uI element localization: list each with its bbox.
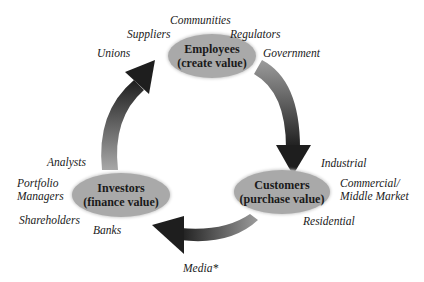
label-unions: Unions: [97, 47, 130, 60]
label-media: Media*: [183, 262, 218, 275]
node-investors-title: Investors: [97, 181, 144, 195]
label-communities: Communities: [170, 14, 231, 27]
node-investors: Investors (finance value): [72, 173, 170, 217]
label-analysts: Analysts: [47, 156, 86, 169]
label-commercial: Commercial/: [340, 177, 400, 190]
node-employees-title: Employees: [184, 42, 239, 56]
label-portfolio: Portfolio: [17, 177, 59, 190]
label-residential: Residential: [303, 215, 355, 228]
label-industrial: Industrial: [321, 157, 366, 170]
node-investors-subtitle: (finance value): [83, 195, 159, 209]
arrow-customers-to-investors: [152, 214, 258, 254]
label-government: Government: [263, 47, 320, 60]
arrow-investors-to-employees: [101, 60, 155, 170]
label-shareholders: Shareholders: [19, 214, 80, 227]
label-middle-market: Middle Market: [340, 190, 409, 203]
node-customers-title: Customers: [254, 178, 309, 192]
label-banks: Banks: [93, 224, 121, 237]
node-customers-subtitle: (purchase value): [240, 192, 325, 206]
label-suppliers: Suppliers: [127, 28, 170, 41]
label-regulators: Regulators: [230, 28, 280, 41]
arrow-employees-to-customers: [254, 60, 311, 175]
node-employees-subtitle: (create value): [177, 56, 246, 70]
node-customers: Customers (purchase value): [234, 170, 330, 214]
label-managers: Managers: [17, 190, 64, 203]
